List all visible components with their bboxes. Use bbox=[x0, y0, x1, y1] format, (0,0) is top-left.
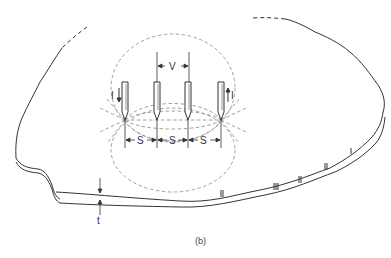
probe-outer-right bbox=[218, 82, 224, 120]
probe-inner-left bbox=[154, 82, 160, 120]
four-point-probe-diagram: I I V S S S t (b) bbox=[0, 0, 391, 258]
label-spacing-1: S bbox=[137, 135, 144, 146]
label-voltage: V bbox=[169, 61, 176, 72]
label-current-right: I bbox=[231, 90, 234, 101]
label-spacing-2: S bbox=[169, 135, 176, 146]
wafer bbox=[16, 18, 385, 208]
label-current-left: I bbox=[111, 90, 114, 101]
label-spacing-3: S bbox=[200, 135, 207, 146]
probe-outer-left bbox=[122, 82, 128, 120]
label-thickness: t bbox=[97, 215, 100, 226]
probe-inner-right bbox=[185, 82, 191, 120]
thickness-dimension bbox=[98, 178, 102, 215]
current-arrows bbox=[117, 88, 230, 102]
figure-caption: (b) bbox=[195, 236, 206, 246]
